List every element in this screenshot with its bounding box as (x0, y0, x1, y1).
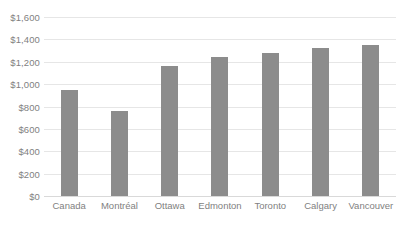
plot-area (44, 17, 396, 196)
bar-slot (245, 17, 295, 196)
bar (161, 66, 178, 196)
bar (211, 57, 228, 196)
bar-slot (145, 17, 195, 196)
y-axis-tick-label: $0 (29, 191, 40, 202)
y-axis-tick-label: $600 (18, 123, 40, 134)
bar-slot (346, 17, 396, 196)
y-axis-tick-label: $1,600 (10, 12, 40, 23)
bar-slot (195, 17, 245, 196)
y-axis-tick-label: $1,000 (10, 79, 40, 90)
bar (312, 48, 329, 196)
bar-chart: $0$200$400$600$800$1,000$1,200$1,400$1,6… (0, 0, 407, 228)
y-axis-tick-label: $800 (18, 101, 40, 112)
bar-slot (44, 17, 94, 196)
y-axis-tick-label: $400 (18, 146, 40, 157)
chart-title (0, 0, 407, 1)
x-axis-tick-label: Canada (44, 198, 94, 218)
bar-series (44, 17, 396, 196)
y-axis-tick-label: $1,400 (10, 34, 40, 45)
x-axis-tick-label: Calgary (295, 198, 345, 218)
x-axis-line (44, 196, 396, 197)
x-axis-tick-label: Montréal (94, 198, 144, 218)
bar (61, 90, 78, 196)
bar (111, 111, 128, 196)
x-axis-tick-label: Toronto (245, 198, 295, 218)
y-axis: $0$200$400$600$800$1,000$1,200$1,400$1,6… (0, 17, 40, 196)
y-axis-tick-label: $200 (18, 168, 40, 179)
x-axis-tick-label: Ottawa (145, 198, 195, 218)
bar (362, 45, 379, 196)
x-axis: CanadaMontréalOttawaEdmontonTorontoCalga… (44, 198, 396, 218)
bar (262, 53, 279, 196)
x-axis-tick-label: Vancouver (346, 198, 396, 218)
bar-slot (295, 17, 345, 196)
y-axis-tick-label: $1,200 (10, 56, 40, 67)
x-axis-tick-label: Edmonton (195, 198, 245, 218)
bar-slot (94, 17, 144, 196)
